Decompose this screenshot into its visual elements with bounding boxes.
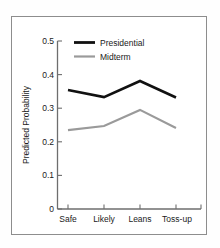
- y-tick-label-0.1: 0.1: [42, 170, 54, 180]
- x-category-label-leans: Leans: [128, 214, 151, 224]
- y-tick-label-0: 0: [49, 204, 54, 214]
- y-tick-label-0.4: 0.4: [42, 70, 54, 80]
- x-axis: Safe Likely Leans Toss-up: [58, 205, 202, 225]
- y-axis: 0.5 0.4 0.3 0.2 0.1 0 Predicted Probabil…: [21, 36, 62, 214]
- x-category-label-safe: Safe: [59, 214, 77, 224]
- line-chart: 0.5 0.4 0.3 0.2 0.1 0 Predicted Probabil…: [0, 0, 220, 248]
- figure-root: 0.5 0.4 0.3 0.2 0.1 0 Predicted Probabil…: [0, 0, 220, 248]
- x-category-label-likely: Likely: [93, 214, 115, 224]
- series-line-midterm: [68, 110, 176, 130]
- series-group: [68, 81, 176, 130]
- series-line-presidential: [68, 81, 176, 97]
- y-tick-label-0.5: 0.5: [42, 36, 54, 46]
- x-category-label-tossup: Toss-up: [162, 214, 192, 224]
- y-axis-title: Predicted Probability: [21, 85, 31, 164]
- legend: Presidential Midterm: [74, 38, 145, 62]
- legend-label-presidential: Presidential: [100, 38, 145, 48]
- y-tick-label-0.2: 0.2: [42, 137, 54, 147]
- legend-label-midterm: Midterm: [100, 52, 131, 62]
- y-tick-label-0.3: 0.3: [42, 103, 54, 113]
